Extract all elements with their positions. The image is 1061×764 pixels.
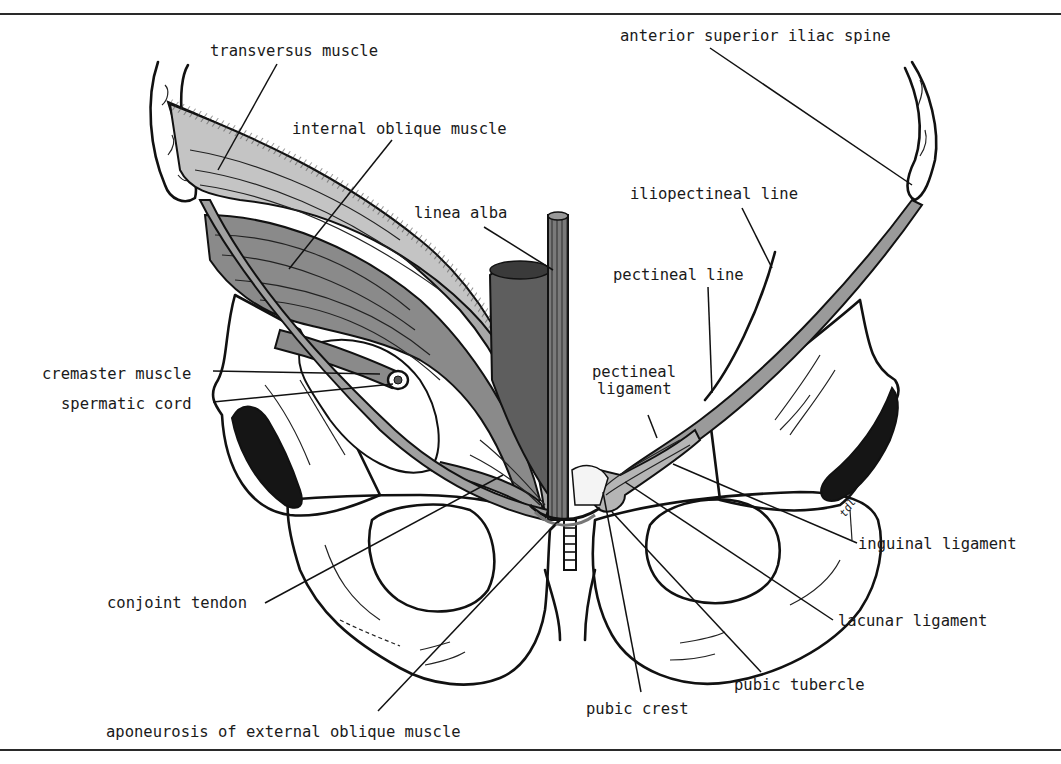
label-linea-alba: linea alba	[414, 204, 507, 222]
label-cremaster-muscle: cremaster muscle	[42, 365, 191, 383]
label-iliopectineal-line: iliopectineal line	[630, 185, 798, 203]
right-iliac-crest	[905, 62, 936, 200]
label-pubic-crest: pubic crest	[586, 700, 689, 718]
label-pectineal-line: pectineal line	[613, 266, 744, 284]
pubic-symphysis	[545, 520, 595, 640]
label-internal-oblique-muscle: internal oblique muscle	[292, 120, 507, 138]
label-transversus-muscle: transversus muscle	[210, 42, 378, 60]
label-spermatic-cord: spermatic cord	[61, 395, 192, 413]
linea-alba	[548, 212, 568, 520]
label-pubic-tubercle: pubic tubercle	[734, 676, 865, 694]
label-aponeurosis-of-external-oblique-muscle: aponeurosis of external oblique muscle	[106, 723, 461, 741]
label-anterior-superior-iliac-spine: anterior superior iliac spine	[620, 27, 891, 45]
left-pubic-bone	[288, 495, 560, 685]
label-pectineal-ligament-line1: pectineal	[592, 363, 676, 381]
label-conjoint-tendon: conjoint tendon	[107, 594, 247, 612]
label-inguinal-ligament: inguinal ligament	[858, 535, 1017, 553]
label-lacunar-ligament: lacunar ligament	[838, 612, 987, 630]
label-pectineal-ligament-line2: ligament	[597, 380, 672, 398]
right-pubic-bone	[593, 492, 881, 684]
